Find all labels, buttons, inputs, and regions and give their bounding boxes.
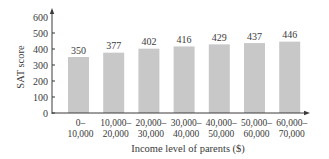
- x-tick-label: 40,000: [173, 129, 199, 139]
- bar: [68, 57, 89, 113]
- x-tick-label: 40,000–: [206, 118, 237, 128]
- bar: [244, 43, 265, 113]
- y-tick-label: 600: [33, 12, 48, 23]
- x-tick-label: 30,000–: [171, 118, 202, 128]
- x-tick-label: 0–: [76, 118, 86, 128]
- y-axis-label-text: SAT score: [15, 45, 26, 89]
- y-tick-label: 300: [33, 60, 48, 71]
- y-tick-label: 200: [33, 76, 48, 87]
- x-tick-label: 60,000–: [276, 118, 307, 128]
- bar: [138, 49, 159, 113]
- x-axis-label: Income level of parents ($): [131, 143, 245, 155]
- x-tick-label: 50,000: [208, 129, 234, 139]
- y-tick-label: 100: [33, 92, 48, 103]
- x-tick-label: 10,000: [67, 129, 93, 139]
- bar: [174, 46, 195, 113]
- bar-value-label: 437: [247, 31, 262, 42]
- x-tick-label: 50,000–: [241, 118, 272, 128]
- bar: [279, 42, 300, 113]
- y-tick-label: 500: [33, 28, 48, 39]
- y-tick-label: 0: [43, 108, 48, 119]
- x-tick-label: 60,000: [243, 129, 269, 139]
- bar-value-label: 402: [141, 36, 156, 47]
- bar-value-label: 446: [282, 29, 297, 40]
- x-tick-label: 20,000–: [135, 118, 166, 128]
- x-axis-arrow-icon: [304, 111, 310, 115]
- x-tick-label: 10,000–: [100, 118, 131, 128]
- bar: [209, 44, 230, 113]
- x-tick-label: 70,000: [279, 129, 305, 139]
- bar-value-label: 350: [71, 45, 86, 56]
- bar: [103, 53, 124, 113]
- bar-value-label: 377: [106, 40, 121, 51]
- x-axis: 0–10,00010,000–20,00020,000–30,00030,000…: [52, 111, 310, 139]
- bars: 350377402416429437446: [68, 29, 300, 113]
- x-tick-label: 30,000: [138, 129, 164, 139]
- x-tick-label: 20,000: [103, 129, 129, 139]
- y-axis-label: SAT score: [15, 45, 26, 89]
- y-axis: 0100200300400500600: [33, 8, 55, 119]
- bar-value-label: 429: [212, 32, 227, 43]
- y-tick-label: 400: [33, 44, 48, 55]
- bar-value-label: 416: [177, 34, 192, 45]
- sat-score-bar-chart: SAT score 0100200300400500600 3503774024…: [0, 0, 329, 159]
- y-axis-arrow-icon: [50, 8, 54, 14]
